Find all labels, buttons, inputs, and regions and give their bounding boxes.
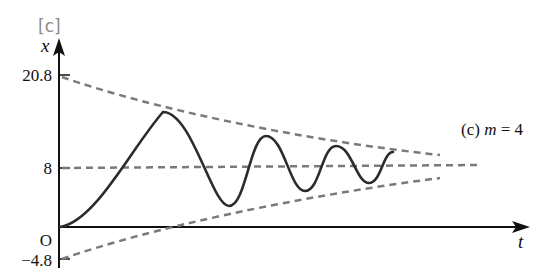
damped-oscillation-figure: [c] x t 20.8 8 O −4.8 (c) m = 4	[0, 0, 542, 274]
panel-label-prefix: (c)	[461, 120, 484, 139]
y-axis-label: x	[40, 35, 50, 56]
panel-label: (c) m = 4	[461, 120, 523, 139]
panel-label-eq: = 4	[496, 120, 523, 139]
panel-label-var: m	[484, 120, 496, 139]
y-tick-label-neg-4-8: −4.8	[21, 251, 52, 270]
lower-envelope	[62, 178, 440, 259]
panel-tag: [c]	[38, 16, 61, 36]
origin-label: O	[40, 231, 52, 250]
y-tick-label-8: 8	[44, 159, 53, 178]
oscillation-curve	[60, 112, 393, 227]
y-tick-label-20-8: 20.8	[22, 66, 52, 85]
upper-envelope	[62, 77, 440, 155]
x-axis-label: t	[518, 231, 524, 252]
